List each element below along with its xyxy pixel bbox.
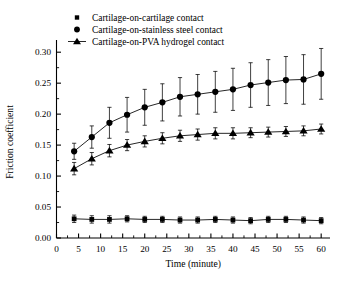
x-tick-label: 15 (118, 244, 128, 254)
data-point (247, 82, 253, 88)
data-point (195, 91, 201, 97)
data-point (142, 217, 147, 222)
y-tick-label: 0.25 (35, 78, 51, 88)
data-point (159, 99, 165, 105)
data-point (211, 129, 219, 136)
data-point (142, 104, 148, 110)
data-point (89, 134, 95, 140)
data-point (284, 217, 289, 222)
x-tick-label: 50 (272, 244, 282, 254)
legend-marker-triangle (73, 38, 81, 44)
data-point (71, 148, 77, 154)
data-point (89, 217, 94, 222)
data-point (72, 216, 77, 221)
data-point (230, 86, 236, 92)
data-point (177, 94, 183, 100)
x-tick-label: 10 (96, 244, 106, 254)
data-point (265, 79, 271, 85)
data-point (247, 129, 255, 136)
data-point (106, 120, 112, 126)
friction-coefficient-chart: 0.000.050.100.150.200.250.30051015202530… (0, 0, 341, 286)
legend-marker-circle (74, 27, 80, 33)
data-point (282, 128, 290, 135)
data-point (160, 217, 165, 222)
legend-marker-square (75, 15, 79, 19)
chart-canvas: 0.000.050.100.150.200.250.30051015202530… (0, 0, 341, 286)
y-tick-label: 0.15 (35, 140, 51, 150)
x-axis-title: Time (minute) (166, 258, 221, 270)
legend-label-2: Cartilage-on-PVA hydrogel contact (92, 37, 224, 47)
y-tick-label: 0.00 (35, 233, 51, 243)
data-point (107, 217, 112, 222)
data-point (231, 218, 236, 223)
y-axis-title: Friction coefficient (4, 105, 15, 179)
x-tick-label: 60 (317, 244, 327, 254)
data-point (229, 129, 237, 136)
x-tick-label: 5 (76, 244, 81, 254)
data-point (195, 218, 200, 223)
data-point (70, 165, 78, 172)
y-tick-label: 0.10 (35, 171, 51, 181)
x-tick-label: 45 (250, 244, 260, 254)
data-point (300, 76, 306, 82)
data-point (212, 89, 218, 95)
x-tick-label: 30 (184, 244, 194, 254)
data-point (266, 217, 271, 222)
legend-label-0: Cartilage-on-cartilage contact (92, 13, 204, 23)
data-point (317, 125, 325, 132)
data-point (264, 128, 272, 135)
data-point (318, 71, 324, 77)
x-tick-label: 40 (228, 244, 238, 254)
x-tick-label: 20 (140, 244, 150, 254)
data-point (283, 77, 289, 83)
y-tick-label: 0.05 (35, 202, 51, 212)
y-tick-label: 0.20 (35, 109, 51, 119)
data-point (178, 218, 183, 223)
data-point (248, 218, 253, 223)
data-point (124, 112, 130, 118)
y-tick-label: 0.30 (35, 47, 51, 57)
data-point (213, 217, 218, 222)
legend-label-1: Cartilage-on-stainless steel contact (92, 25, 223, 35)
x-tick-label: 0 (54, 244, 59, 254)
data-point (88, 155, 96, 162)
data-point (319, 218, 324, 223)
x-tick-label: 25 (162, 244, 172, 254)
data-point (301, 218, 306, 223)
data-point (125, 216, 130, 221)
x-tick-label: 55 (295, 244, 305, 254)
x-tick-label: 35 (206, 244, 216, 254)
